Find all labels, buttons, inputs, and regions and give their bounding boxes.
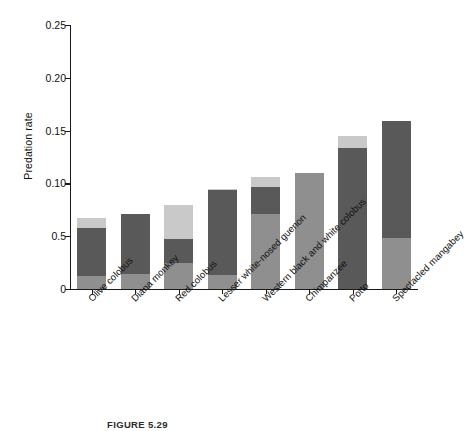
bar-group (208, 189, 237, 289)
bar-segment-upper-segment (251, 177, 280, 187)
figure-caption: FIGURE 5.29 (107, 419, 168, 431)
bar-segment-upper-segment (164, 205, 193, 240)
bar-group (251, 177, 280, 289)
bar-segment-upper-segment (338, 136, 367, 148)
bar-group (382, 121, 411, 289)
y-tick-label: 0.20 (46, 72, 66, 84)
bar-segment-middle-segment (251, 187, 280, 214)
bar-segment-middle-segment (77, 228, 106, 277)
plot-area: 0.250.200.150.100.50 (70, 25, 418, 289)
y-tick-label: 0.25 (46, 19, 66, 31)
y-tick-label: 0 (60, 283, 66, 295)
bar-segment-middle-segment (382, 121, 411, 238)
bar-segment-upper-segment (77, 218, 106, 228)
y-tick-label: 0.15 (46, 125, 66, 137)
y-tick-label: 0.10 (46, 177, 66, 189)
bars-layer (70, 25, 418, 289)
y-tick-label: 0.5 (51, 230, 66, 242)
bar-segment-upper-segment (208, 189, 237, 190)
y-axis-title: Predation rate (22, 76, 34, 216)
x-axis-labels: Olive colobusDiana monkeyRed colobusLess… (70, 296, 435, 406)
bar-group (164, 205, 193, 289)
